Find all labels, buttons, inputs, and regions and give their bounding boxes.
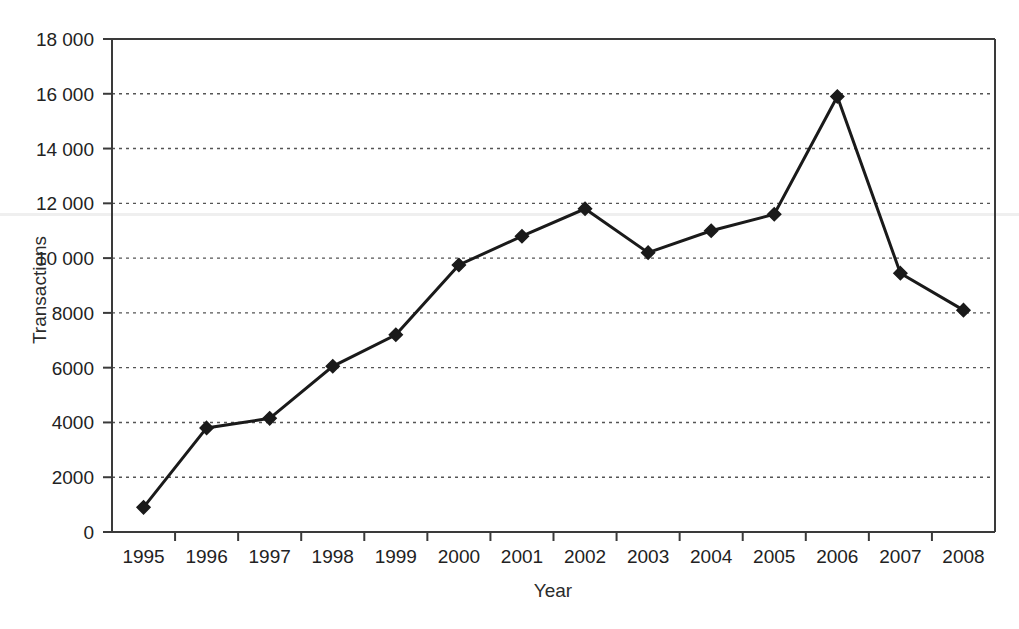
y-axis-title: Transactions: [29, 236, 50, 344]
line-chart-figure: 0200040006000800010 00012 00014 00016 00…: [0, 0, 1019, 629]
y-axis-tick-label: 18 000: [36, 29, 94, 50]
x-axis-tick-label: 2003: [627, 546, 669, 567]
x-axis-tick-label: 2004: [690, 546, 733, 567]
data-point-marker: [768, 208, 781, 221]
gridlines: [112, 94, 995, 477]
data-point-marker: [831, 90, 844, 103]
x-axis-tick-label: 2005: [753, 546, 795, 567]
y-axis-tick-label: 6000: [52, 358, 94, 379]
x-axis-tick-label: 2001: [501, 546, 543, 567]
data-point-marker: [705, 224, 718, 237]
x-axis-tick-label: 2002: [564, 546, 606, 567]
data-point-marker: [894, 267, 907, 280]
y-axis-tick-label: 2000: [52, 467, 94, 488]
x-axis-tick-label: 1999: [375, 546, 417, 567]
chart-canvas: 0200040006000800010 00012 00014 00016 00…: [0, 0, 1019, 629]
data-point-marker: [515, 230, 528, 243]
y-axis-tick-label: 0: [83, 522, 94, 543]
x-axis: 1995199619971998199920002001200220032004…: [112, 39, 995, 567]
x-axis-title: Year: [534, 580, 573, 601]
x-axis-tick-label: 2000: [438, 546, 480, 567]
x-axis-tick-label: 1996: [185, 546, 227, 567]
y-axis-tick-label: 8000: [52, 303, 94, 324]
y-axis-tick-label: 16 000: [36, 84, 94, 105]
x-axis-tick-label: 1998: [312, 546, 354, 567]
y-axis-tick-label: 4000: [52, 412, 94, 433]
data-point-marker: [957, 304, 970, 317]
y-axis-tick-label: 14 000: [36, 139, 94, 160]
x-axis-tick-label: 1997: [249, 546, 291, 567]
data-series-markers: [137, 90, 970, 514]
x-axis-tick-label: 2008: [942, 546, 984, 567]
x-axis-tick-label: 1995: [122, 546, 164, 567]
data-series-line: [144, 97, 964, 508]
y-axis-tick-label: 12 000: [36, 193, 94, 214]
x-axis-tick-label: 2007: [879, 546, 921, 567]
x-axis-tick-label: 2006: [816, 546, 858, 567]
